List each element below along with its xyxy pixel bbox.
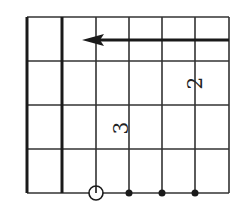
string-dot-icon xyxy=(159,190,166,197)
string-dot-icon xyxy=(126,190,133,197)
finger-number-label: 3 xyxy=(109,122,133,135)
chord-diagram: 32 xyxy=(0,0,242,208)
string-dot-icon xyxy=(192,190,199,197)
finger-number-label: 2 xyxy=(183,77,207,90)
